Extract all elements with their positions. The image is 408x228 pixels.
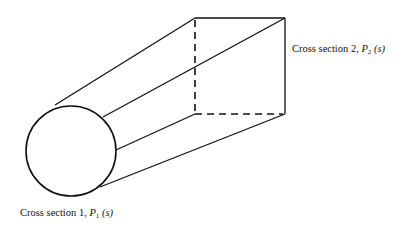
cross-section-1-label-prefix: Cross section 1, — [20, 207, 89, 218]
cross-section-2-label: Cross section 2, P2 (s) — [292, 43, 386, 56]
cross-section-1-circle — [26, 106, 116, 196]
cross-section-1-argument: (s) — [99, 207, 113, 219]
transition-line-middle — [116, 114, 195, 150]
cross-section-2-square — [195, 18, 285, 114]
cross-section-2-label-prefix: Cross section 2, — [292, 43, 361, 54]
cross-section-1-label: Cross section 1, P1 (s) — [20, 207, 114, 220]
transition-line-top — [55, 18, 195, 105]
cross-section-2-argument: (s) — [371, 43, 385, 55]
transition-lines — [55, 18, 285, 187]
transition-line-bottom — [100, 114, 285, 187]
transition-line-upper-diagonal — [103, 18, 285, 117]
transition-diagram: Cross section 2, P2 (s) Cross section 1,… — [0, 0, 408, 228]
